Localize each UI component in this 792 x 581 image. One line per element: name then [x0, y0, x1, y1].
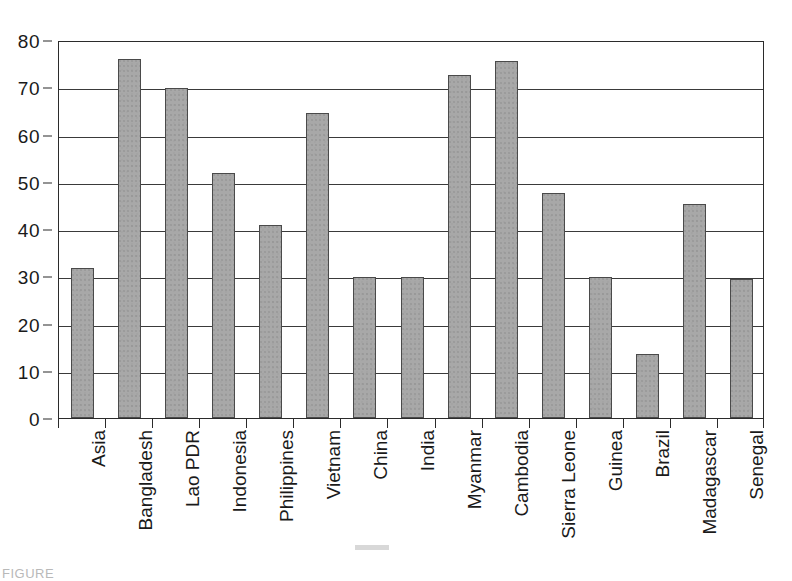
bar — [212, 173, 235, 418]
x-tick-label: Vietnam — [324, 430, 344, 499]
bar — [636, 354, 659, 418]
y-tick-label: 60 — [18, 126, 40, 145]
y-tick-mark — [43, 230, 52, 231]
x-tick-label: Indonesia — [230, 430, 250, 512]
y-tick-label: 10 — [18, 362, 40, 381]
x-tick-mark — [623, 419, 624, 428]
x-tick-mark — [670, 419, 671, 428]
x-tick-mark — [763, 419, 764, 428]
x-tick-label: Senegal — [747, 430, 767, 500]
y-tick-label: 70 — [18, 79, 40, 98]
x-tick-mark — [340, 419, 341, 428]
scan-artifact — [355, 545, 389, 550]
bar — [683, 204, 706, 419]
x-tick-label: Cambodia — [512, 430, 532, 517]
x-tick-mark — [435, 419, 436, 428]
bar — [71, 268, 94, 418]
bar — [542, 193, 565, 418]
x-tick-mark — [58, 419, 59, 428]
figure-caption: FIGURE — [2, 566, 54, 580]
bar — [259, 225, 282, 418]
y-tick-mark — [43, 135, 52, 136]
bar — [495, 61, 518, 418]
x-axis-ticks — [58, 419, 764, 428]
bar — [401, 277, 424, 418]
bar — [353, 277, 376, 418]
x-tick-label: Madagascar — [700, 430, 720, 535]
y-tick-mark — [43, 277, 52, 278]
x-axis-labels: AsiaBangladeshLao PDRIndonesiaPhilippine… — [58, 430, 764, 545]
plot-area — [58, 41, 764, 419]
y-tick-label: 80 — [18, 32, 40, 51]
y-tick-label: 30 — [18, 268, 40, 287]
bar — [306, 113, 329, 418]
x-tick-mark — [152, 419, 153, 428]
x-tick-mark — [387, 419, 388, 428]
bar — [448, 75, 471, 418]
x-tick-label: Brazil — [653, 430, 673, 478]
x-tick-mark — [293, 419, 294, 428]
y-tick-label: 0 — [29, 410, 40, 429]
x-tick-label: Guinea — [606, 430, 626, 491]
x-tick-mark — [529, 419, 530, 428]
x-tick-mark — [717, 419, 718, 428]
y-axis: 01020304050607080 — [0, 41, 52, 419]
bar — [730, 279, 753, 418]
y-tick-mark — [43, 182, 52, 183]
x-tick-mark — [199, 419, 200, 428]
y-tick-mark — [43, 88, 52, 89]
x-tick-label: Sierra Leone — [559, 430, 579, 539]
x-tick-mark — [482, 419, 483, 428]
x-tick-mark — [246, 419, 247, 428]
x-tick-mark — [105, 419, 106, 428]
bar — [118, 59, 141, 418]
y-tick-mark — [43, 324, 52, 325]
bar — [589, 277, 612, 418]
x-tick-label: Bangladesh — [136, 430, 156, 530]
x-tick-label: China — [371, 430, 391, 480]
y-tick-mark — [43, 371, 52, 372]
x-tick-mark — [576, 419, 577, 428]
y-tick-label: 40 — [18, 221, 40, 240]
y-tick-mark — [43, 41, 52, 42]
y-tick-label: 50 — [18, 173, 40, 192]
y-tick-label: 20 — [18, 315, 40, 334]
figure-container: 01020304050607080 AsiaBangladeshLao PDRI… — [0, 0, 792, 581]
x-tick-label: Asia — [89, 430, 109, 467]
bar — [165, 88, 188, 418]
y-tick-mark — [43, 419, 52, 420]
x-tick-label: Lao PDR — [183, 430, 203, 507]
x-tick-label: Myanmar — [465, 430, 485, 509]
x-tick-label: India — [418, 430, 438, 471]
x-tick-label: Philippines — [277, 430, 297, 522]
